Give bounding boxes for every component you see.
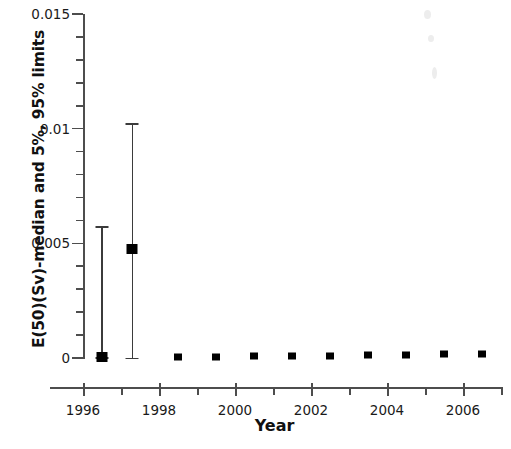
x-axis-tick-label: 2000 — [218, 402, 252, 418]
y-axis-minor-tick — [76, 82, 83, 84]
error-bar-cap-upper — [126, 123, 139, 125]
x-axis-minor-tick — [273, 387, 275, 395]
y-axis-major-tick — [72, 13, 83, 15]
y-axis-minor-tick — [76, 36, 83, 38]
y-axis-major-tick — [72, 128, 83, 130]
error-bar-line — [101, 226, 103, 357]
y-axis-line — [83, 14, 85, 359]
scan-speck — [432, 67, 437, 79]
y-axis-minor-tick — [76, 334, 83, 336]
x-axis-tick-label: 2004 — [370, 402, 404, 418]
data-point-marker — [250, 353, 258, 360]
y-axis-tick-label: 0.015 — [31, 6, 70, 22]
data-point-marker — [288, 352, 296, 359]
scan-speck — [428, 35, 434, 42]
y-axis-minor-tick — [76, 105, 83, 107]
error-bar-cap-lower — [126, 358, 139, 360]
plot-area: 00.0050.010.015 199619982000200220042006 — [83, 14, 511, 358]
y-axis-minor-tick — [76, 220, 83, 222]
x-axis-major-tick — [83, 383, 85, 396]
y-axis-minor-tick — [76, 59, 83, 61]
data-point-marker — [402, 351, 410, 358]
y-axis-minor-tick — [76, 288, 83, 290]
x-axis-line — [50, 387, 502, 389]
y-axis-minor-tick — [76, 197, 83, 199]
data-point-marker — [174, 353, 182, 360]
x-axis-minor-tick — [197, 387, 199, 395]
scan-speck — [424, 10, 431, 19]
x-axis-tick-label: 2002 — [294, 402, 328, 418]
x-axis-tick-label: 1998 — [142, 402, 176, 418]
data-point-marker — [97, 352, 108, 362]
y-axis-minor-tick — [76, 311, 83, 313]
data-point-marker — [364, 352, 372, 359]
error-bar-cap-upper — [96, 226, 109, 228]
y-axis-title: E(50)(Sv)-median and 5%, 95% limits — [30, 9, 48, 369]
x-axis-major-tick — [235, 383, 237, 396]
chart-figure: E(50)(Sv)-median and 5%, 95% limits Year… — [0, 0, 511, 449]
data-point-marker — [440, 351, 448, 358]
x-axis-minor-tick — [425, 387, 427, 395]
y-axis-minor-tick — [76, 174, 83, 176]
x-axis-minor-tick — [501, 387, 503, 395]
error-bar-line — [132, 123, 134, 358]
x-axis-tick-label: 1996 — [66, 402, 100, 418]
x-axis-major-tick — [311, 383, 313, 396]
data-point-marker — [127, 244, 138, 254]
y-axis-tick-label: 0 — [61, 350, 70, 366]
y-axis-minor-tick — [76, 265, 83, 267]
data-point-marker — [212, 353, 220, 360]
x-axis-title-text: Year — [255, 416, 295, 435]
data-point-marker — [478, 350, 486, 357]
x-axis-major-tick — [159, 383, 161, 396]
y-axis-major-tick — [72, 243, 83, 245]
x-axis-tick-label: 2006 — [446, 402, 480, 418]
x-axis-major-tick — [387, 383, 389, 396]
x-axis-major-tick — [463, 383, 465, 396]
y-axis-minor-tick — [76, 151, 83, 153]
y-axis-tick-label: 0.005 — [31, 235, 70, 251]
y-axis-tick-label: 0.01 — [40, 121, 70, 137]
data-point-marker — [326, 352, 334, 359]
x-axis-minor-tick — [349, 387, 351, 395]
x-axis-title: Year — [0, 416, 511, 435]
x-axis-minor-tick — [121, 387, 123, 395]
y-axis-major-tick — [72, 357, 83, 359]
